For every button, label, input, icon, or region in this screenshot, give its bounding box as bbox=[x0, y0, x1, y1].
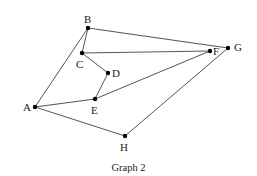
edge-c-f bbox=[82, 51, 210, 53]
node-e bbox=[93, 97, 97, 101]
node-label-g: G bbox=[234, 42, 242, 53]
edge-h-g bbox=[125, 48, 228, 136]
edge-d-e bbox=[95, 73, 108, 99]
node-label-f: F bbox=[213, 46, 219, 57]
edge-c-d bbox=[82, 53, 108, 73]
node-c bbox=[80, 51, 84, 55]
graph-nodes bbox=[33, 26, 230, 138]
node-g bbox=[226, 46, 230, 50]
graph-caption: Graph 2 bbox=[0, 162, 257, 173]
edge-a-h bbox=[35, 107, 125, 136]
graph-diagram bbox=[0, 0, 257, 176]
edge-a-e bbox=[35, 99, 95, 107]
node-label-e: E bbox=[91, 105, 98, 116]
edge-b-g bbox=[88, 28, 228, 48]
node-label-h: H bbox=[120, 142, 128, 153]
node-f bbox=[208, 49, 212, 53]
graph-edges bbox=[35, 28, 228, 136]
node-d bbox=[106, 71, 110, 75]
node-label-d: D bbox=[112, 68, 120, 79]
node-a bbox=[33, 105, 37, 109]
node-label-a: A bbox=[23, 102, 31, 113]
node-h bbox=[123, 134, 127, 138]
node-label-c: C bbox=[76, 59, 83, 70]
node-label-b: B bbox=[84, 14, 91, 25]
node-b bbox=[86, 26, 90, 30]
